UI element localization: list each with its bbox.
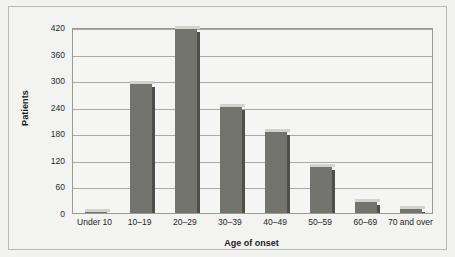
y-axis-tick-label: 120 [25,156,65,166]
bar [265,132,287,213]
bar-top-face [400,206,425,209]
figure-frame: Patients 060120180240300360420 Under 101… [8,6,447,250]
y-axis-tick-label: 180 [25,129,65,139]
bar-side-face [242,110,245,213]
y-axis-tick-label: 0 [25,209,65,219]
bar-top-face [130,81,155,84]
y-axis-tick-label: 240 [25,103,65,113]
bar [310,167,332,213]
bar-top-face [85,209,110,212]
bar [85,212,107,213]
bar [355,202,377,213]
bar [130,84,152,213]
bar-side-face [377,205,380,213]
y-axis-tick-label: 360 [25,50,65,60]
bar [400,209,422,213]
y-axis-tick-label: 60 [25,182,65,192]
bar-top-face [220,104,245,107]
bar-series [73,29,432,213]
bar-side-face [197,32,200,213]
bar-top-face [355,199,380,202]
bar-side-face [332,170,335,213]
bar [175,29,197,213]
bar-top-face [310,164,335,167]
y-axis-tick-label: 420 [25,23,65,33]
bar [220,107,242,213]
bar-side-face [152,87,155,213]
bar-top-face [175,26,200,29]
bar-side-face [422,212,425,213]
bar-top-face [265,129,290,132]
chart-figure: Patients 060120180240300360420 Under 101… [0,0,455,257]
y-axis-tick-label: 300 [25,76,65,86]
x-axis-title: Age of onset [69,238,434,248]
plot-area [72,28,433,214]
bar-side-face [287,135,290,213]
x-axis-tick-label: 70 and over [379,217,441,227]
